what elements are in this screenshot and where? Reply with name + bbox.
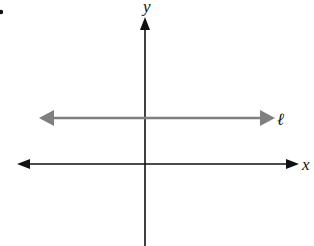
y-axis [140,17,150,246]
line-l-left-arrowhead-icon [39,110,54,126]
line-l [39,110,275,126]
x-axis-left-arrowhead-icon [17,159,30,169]
x-axis-label: x [301,155,310,174]
line-l-right-arrowhead-icon [260,110,275,126]
coordinate-diagram: y ℓ x [0,0,314,246]
y-axis-arrowhead-icon [140,17,150,30]
line-l-label: ℓ [277,110,284,129]
marker-dot [0,10,3,14]
y-axis-label: y [141,0,151,16]
x-axis [17,159,299,169]
x-axis-right-arrowhead-icon [286,159,299,169]
